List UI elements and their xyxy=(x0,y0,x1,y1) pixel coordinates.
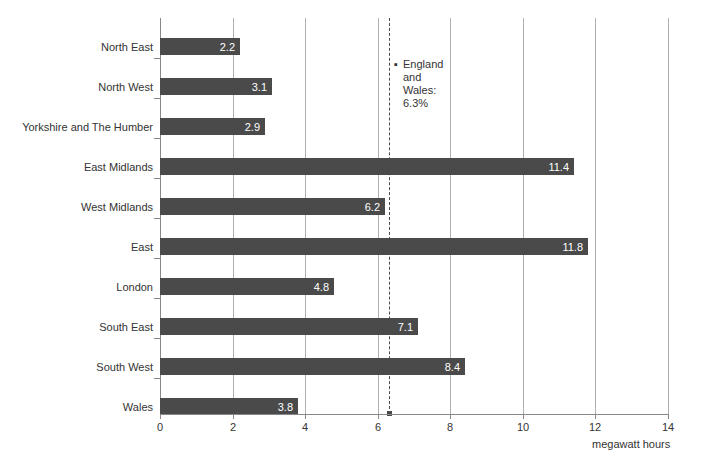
ytick-mark-6 xyxy=(154,258,160,259)
category-label-wales: Wales xyxy=(3,401,153,413)
annotation-line-4: 6.3% xyxy=(403,97,443,110)
annotation-line-2: and xyxy=(403,71,443,84)
category-label-london: London xyxy=(3,281,153,293)
bar-wales[interactable]: 3.8 xyxy=(160,398,298,415)
xtick-label-12: 12 xyxy=(575,421,615,433)
reference-line-england-and-wales xyxy=(389,18,390,414)
category-label-east-wrap: East xyxy=(0,241,153,253)
xtick-mark-0 xyxy=(160,414,161,419)
category-label-south-east: South East xyxy=(3,321,153,333)
xtick-mark-8 xyxy=(450,414,451,419)
category-label-west-midlands-wrap: West Midlands xyxy=(0,201,153,213)
xtick-label-8: 8 xyxy=(430,421,470,433)
xtick-mark-12 xyxy=(595,414,596,419)
category-label-east: East xyxy=(3,241,153,253)
annotation-line-3: Wales: xyxy=(403,84,443,97)
xtick-mark-6 xyxy=(378,414,379,419)
ytick-mark-1 xyxy=(154,58,160,59)
ytick-mark-9 xyxy=(154,378,160,379)
xtick-mark-4 xyxy=(305,414,306,419)
ytick-mark-8 xyxy=(154,338,160,339)
bar-chart: 2.2 3.1 2.9 11.4 6.2 11.8 4.8 7.1 8.4 3.… xyxy=(0,0,709,474)
gridline-4 xyxy=(305,18,306,414)
category-label-london-wrap: London xyxy=(0,281,153,293)
ytick-mark-2 xyxy=(154,98,160,99)
bar-yorkshire-and-the-humber[interactable]: 2.9 xyxy=(160,118,265,135)
xtick-label-14: 14 xyxy=(648,421,688,433)
category-label-east-midlands-wrap: East Midlands xyxy=(0,161,153,173)
bar-south-east[interactable]: 7.1 xyxy=(160,318,418,335)
bar-east[interactable]: 11.8 xyxy=(160,238,588,255)
bar-value-label: 11.4 xyxy=(548,161,569,172)
xtick-label-2: 2 xyxy=(213,421,253,433)
bar-value-label: 11.8 xyxy=(562,241,583,252)
ytick-mark-7 xyxy=(154,298,160,299)
category-label-north-west: North West xyxy=(3,81,153,93)
ytick-mark-3 xyxy=(154,138,160,139)
ytick-mark-4 xyxy=(154,178,160,179)
xtick-label-10: 10 xyxy=(503,421,543,433)
gridline-8 xyxy=(450,18,451,414)
xtick-mark-10 xyxy=(523,414,524,419)
bar-north-west[interactable]: 3.1 xyxy=(160,78,272,95)
bar-north-east[interactable]: 2.2 xyxy=(160,38,240,55)
bar-value-label: 3.1 xyxy=(252,81,267,92)
xtick-mark-14 xyxy=(668,414,669,419)
bar-value-label: 2.2 xyxy=(220,41,235,52)
xtick-label-6: 6 xyxy=(358,421,398,433)
gridline-6 xyxy=(378,18,379,414)
category-label-south-west-wrap: South West xyxy=(0,361,153,373)
x-axis-line xyxy=(160,414,669,415)
bar-west-midlands[interactable]: 6.2 xyxy=(160,198,385,215)
bar-value-label: 8.4 xyxy=(445,361,460,372)
xtick-label-4: 4 xyxy=(285,421,325,433)
ytick-mark-5 xyxy=(154,218,160,219)
bar-value-label: 2.9 xyxy=(245,121,260,132)
bar-south-west[interactable]: 8.4 xyxy=(160,358,465,375)
x-axis-title: megawatt hours xyxy=(592,438,670,450)
category-label-north-east-wrap: North East xyxy=(0,41,153,53)
category-label-west-midlands: West Midlands xyxy=(3,201,153,213)
annotation-line-1: England xyxy=(403,58,443,71)
category-label-south-west: South West xyxy=(3,361,153,373)
bar-value-label: 3.8 xyxy=(278,401,293,412)
category-label-wales-wrap: Wales xyxy=(0,401,153,413)
category-label-south-east-wrap: South East xyxy=(0,321,153,333)
bar-value-label: 6.2 xyxy=(365,201,380,212)
category-label-yorkshire-and-the-humber-wrap: Yorkshire and The Humber xyxy=(0,121,153,133)
bar-value-label: 4.8 xyxy=(314,281,329,292)
category-label-north-east: North East xyxy=(3,41,153,53)
bar-london[interactable]: 4.8 xyxy=(160,278,334,295)
xtick-label-0: 0 xyxy=(140,421,180,433)
category-label-east-midlands: East Midlands xyxy=(3,161,153,173)
xtick-mark-2 xyxy=(233,414,234,419)
gridline-12 xyxy=(595,18,596,414)
gridline-10 xyxy=(523,18,524,414)
reference-annotation: ▪ England and Wales: 6.3% xyxy=(403,58,443,110)
category-label-yorkshire-and-the-humber: Yorkshire and The Humber xyxy=(3,121,153,133)
bar-value-label: 7.1 xyxy=(398,321,413,332)
gridline-14 xyxy=(668,18,669,414)
category-label-north-west-wrap: North West xyxy=(0,81,153,93)
bar-east-midlands[interactable]: 11.4 xyxy=(160,158,574,175)
bullet-icon: ▪ xyxy=(394,58,398,71)
